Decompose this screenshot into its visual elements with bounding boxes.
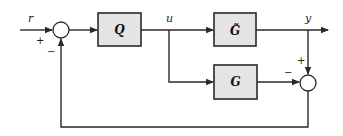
error-sum-plus-sign: +: [297, 55, 305, 66]
error-sum-minus-sign: −: [284, 67, 292, 78]
input-summing-junction: [53, 22, 69, 38]
control-signal-label: u: [166, 12, 173, 25]
controller-label: Q: [114, 23, 125, 37]
model-label: G: [230, 75, 240, 89]
input-sum-plus-sign: +: [36, 35, 44, 46]
output-label: y: [304, 12, 312, 25]
imc-block-diagram: r + − Q u G̃ y + G −: [0, 0, 343, 136]
reference-label: r: [28, 12, 34, 25]
control-branch-line: [169, 30, 213, 82]
plant-label: G̃: [230, 23, 240, 38]
error-summing-junction: [300, 75, 316, 91]
feedback-loop-line: [61, 39, 308, 127]
input-sum-minus-sign: −: [47, 46, 55, 57]
